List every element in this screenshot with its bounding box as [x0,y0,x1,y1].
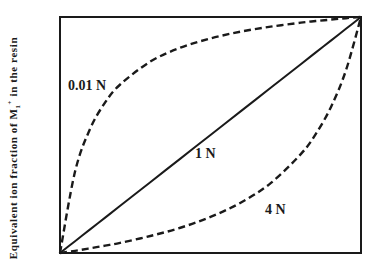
ion-exchange-isotherm-chart [0,0,380,280]
y-axis-label-suffix: in the resin [7,37,19,100]
series-layer [60,17,361,253]
y-axis-label: Equivalent ion fraction of M1+ in the re… [7,37,19,259]
y-axis-label-superscript: + [6,100,14,105]
y-axis-label-prefix: Equivalent ion fraction of M [7,108,19,259]
label-1n: 1 N [195,147,216,161]
label-0-01n: 0.01 N [68,79,106,93]
label-4n: 4 N [265,203,286,217]
y-axis-label-subscript: 1 [14,104,22,108]
